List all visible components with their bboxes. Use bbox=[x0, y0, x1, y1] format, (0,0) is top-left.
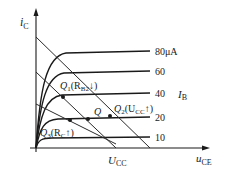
ib-label: IB bbox=[177, 88, 187, 102]
curve-label-20: 20 bbox=[155, 112, 165, 123]
curve-label-80: 80μA bbox=[155, 46, 178, 57]
x-axis-label: uCE bbox=[196, 152, 212, 167]
curve-label-40: 40 bbox=[155, 88, 165, 99]
label-q2: Q2(UCC↑) bbox=[114, 103, 153, 116]
point-q bbox=[86, 117, 90, 121]
point-q1 bbox=[61, 95, 65, 99]
point-q3 bbox=[68, 118, 72, 122]
label-q: Q bbox=[94, 106, 102, 117]
y-axis-label: iC bbox=[20, 15, 29, 31]
x-axis-arrow-icon bbox=[202, 146, 210, 151]
curve-label-10: 10 bbox=[155, 132, 165, 143]
point-q2 bbox=[108, 114, 112, 118]
curve-label-60: 60 bbox=[155, 66, 165, 77]
ucc-label: UCC bbox=[108, 154, 127, 168]
y-axis-arrow-icon bbox=[34, 8, 39, 16]
curve-10 bbox=[36, 137, 150, 148]
output-characteristics-diagram: iC uCE UCC 80μA 60 40 20 10 IB Q1(RB2↓) … bbox=[0, 0, 226, 172]
